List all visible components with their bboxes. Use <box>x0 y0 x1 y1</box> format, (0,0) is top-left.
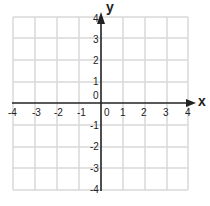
y-tick-label: -4 <box>90 185 99 195</box>
y-axis-label: y <box>106 0 114 15</box>
y-tick-label: 2 <box>93 56 99 66</box>
x-tick-label: -3 <box>32 108 41 118</box>
coordinate-plane <box>0 0 210 206</box>
y-tick-label: -2 <box>90 142 99 152</box>
x-tick-label: -1 <box>77 108 86 118</box>
y-tick-label: 4 <box>93 14 99 24</box>
y-tick-label: -1 <box>90 121 99 131</box>
y-tick-label: 1 <box>93 77 99 87</box>
x-tick-label: 2 <box>141 108 147 118</box>
y-tick-label: 3 <box>93 35 99 45</box>
x-tick-label: 4 <box>185 108 191 118</box>
y-tick-label: 0 <box>93 91 99 101</box>
x-tick-label: -2 <box>54 108 63 118</box>
x-tick-label: -4 <box>8 108 17 118</box>
x-axis-arrow-icon <box>186 99 196 107</box>
x-tick-label: 1 <box>120 108 126 118</box>
x-tick-label: 0 <box>104 108 110 118</box>
y-tick-label: -3 <box>90 164 99 174</box>
x-axis-label: x <box>198 93 206 109</box>
x-tick-label: 3 <box>163 108 169 118</box>
